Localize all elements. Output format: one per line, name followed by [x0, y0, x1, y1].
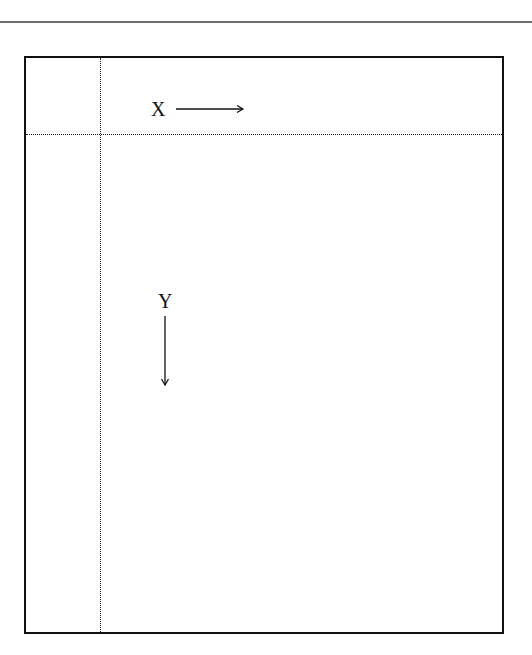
- x-axis-label: X: [151, 99, 165, 119]
- page-frame: [24, 56, 504, 634]
- y-axis-label: Y: [158, 291, 172, 311]
- arrow-right-icon: [176, 104, 246, 114]
- horizontal-dashed-guide: [26, 134, 502, 135]
- top-rule-divider: [0, 21, 532, 23]
- arrow-down-icon: [160, 316, 170, 388]
- vertical-dashed-guide: [100, 58, 101, 632]
